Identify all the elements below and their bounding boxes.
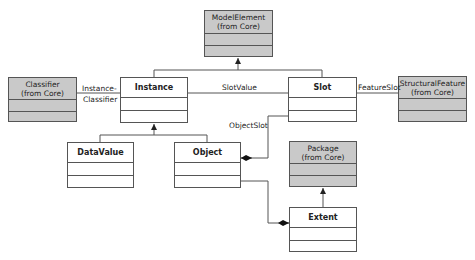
attributes-compartment <box>399 99 466 111</box>
class-name: Instance <box>121 83 187 92</box>
class-extent[interactable]: Extent <box>289 207 357 252</box>
operations-compartment <box>175 176 240 187</box>
operations-compartment <box>399 111 466 121</box>
class-stereotype: (from Core) <box>9 89 76 98</box>
operations-compartment <box>205 46 272 56</box>
composition-diamond-shape-extent <box>278 220 289 226</box>
class-modelelement[interactable]: ModelElement (from Core) <box>204 10 273 57</box>
class-name: Classifier <box>9 80 76 89</box>
label-instance-classifier-line1: Instance- <box>82 84 117 93</box>
class-datavalue-header: DataValue <box>68 143 133 163</box>
label-featureslot: FeatureSlot <box>358 83 401 92</box>
class-instance[interactable]: Instance <box>120 77 188 123</box>
class-name: Slot <box>289 83 356 92</box>
generalization-datavalue-instance <box>100 135 154 142</box>
class-stereotype: (from Core) <box>290 153 356 162</box>
class-name: ModelElement <box>205 13 272 22</box>
class-stereotype: (from Core) <box>205 22 272 31</box>
class-name: DataValue <box>68 148 133 157</box>
class-modelelement-header: ModelElement (from Core) <box>205 11 272 34</box>
class-name: Object <box>175 148 240 157</box>
label-instance-classifier-line2: Classifier <box>83 95 117 104</box>
uml-diagram: ModelElement (from Core) Classifier (fro… <box>0 0 475 260</box>
class-classifier[interactable]: Classifier (from Core) <box>8 77 77 122</box>
class-object[interactable]: Object <box>174 142 241 188</box>
class-name: StructuralFeature <box>399 79 466 88</box>
class-instance-header: Instance <box>121 78 187 98</box>
class-datavalue[interactable]: DataValue <box>67 142 134 188</box>
class-package[interactable]: Package (from Core) <box>289 141 357 187</box>
assoc-object-extent <box>241 181 279 223</box>
attributes-compartment <box>290 164 356 176</box>
class-object-header: Object <box>175 143 240 163</box>
operations-compartment <box>290 176 356 186</box>
attributes-compartment <box>68 163 133 176</box>
class-slot[interactable]: Slot <box>288 77 357 122</box>
attributes-compartment <box>290 228 356 241</box>
attributes-compartment <box>9 100 76 112</box>
operations-compartment <box>68 176 133 187</box>
class-name: Extent <box>290 213 356 222</box>
class-extent-header: Extent <box>290 208 356 228</box>
class-classifier-header: Classifier (from Core) <box>9 78 76 100</box>
operations-compartment <box>9 112 76 121</box>
attributes-compartment <box>121 98 187 111</box>
generalization-instance-modelelement <box>154 70 238 77</box>
operations-compartment <box>289 111 356 121</box>
attributes-compartment <box>205 34 272 46</box>
composition-diamond-shape-object <box>241 155 252 161</box>
operations-compartment <box>121 111 187 122</box>
attributes-compartment <box>175 163 240 176</box>
class-package-header: Package (from Core) <box>290 142 356 164</box>
class-structuralfeature-header: StructuralFeature (from Core) <box>399 77 466 99</box>
label-slotvalue: SlotValue <box>222 83 257 92</box>
class-name: Package <box>290 144 356 153</box>
class-stereotype: (from Core) <box>399 88 466 97</box>
class-slot-header: Slot <box>289 78 356 98</box>
generalization-slot-modelelement <box>238 70 322 77</box>
label-objectslot: ObjectSlot <box>229 121 268 130</box>
attributes-compartment <box>289 98 356 111</box>
class-structuralfeature[interactable]: StructuralFeature (from Core) <box>398 76 467 122</box>
operations-compartment <box>290 241 356 251</box>
generalization-object-instance <box>154 135 207 142</box>
